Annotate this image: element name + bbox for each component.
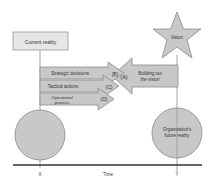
diagram-canvas: Current reality Vision (A) Building out … bbox=[0, 0, 216, 188]
arrow-d-label-line2: process bbox=[55, 100, 70, 105]
arrow-d-marker: (D) bbox=[101, 96, 108, 102]
arrow-b-marker: (B) bbox=[112, 71, 119, 77]
axis-time-label: Time bbox=[103, 172, 113, 177]
arrow-b-label: Strategic decisions bbox=[51, 71, 90, 76]
future-reality-line1: Organization's bbox=[163, 127, 192, 132]
future-reality-circle: Organization's future reality bbox=[152, 108, 202, 158]
axis-start-label: X bbox=[38, 172, 41, 177]
vision-star: Vision bbox=[153, 12, 201, 58]
arrow-a-line1: Building out bbox=[138, 71, 162, 76]
vision-label: Vision bbox=[171, 35, 184, 40]
current-reality-box: Current reality bbox=[13, 32, 68, 50]
building-out-vision-arrow: (A) Building out the vision bbox=[112, 58, 178, 94]
current-state-circle bbox=[15, 110, 65, 160]
arrow-c-marker: (C) bbox=[106, 84, 113, 90]
axis-end-label: Y bbox=[175, 172, 178, 177]
current-reality-label: Current reality bbox=[25, 39, 57, 45]
future-reality-line2: future reality bbox=[165, 133, 191, 138]
arrow-a-line2: the vision bbox=[140, 77, 160, 82]
arrow-c-label: Tactical actions bbox=[48, 84, 79, 89]
